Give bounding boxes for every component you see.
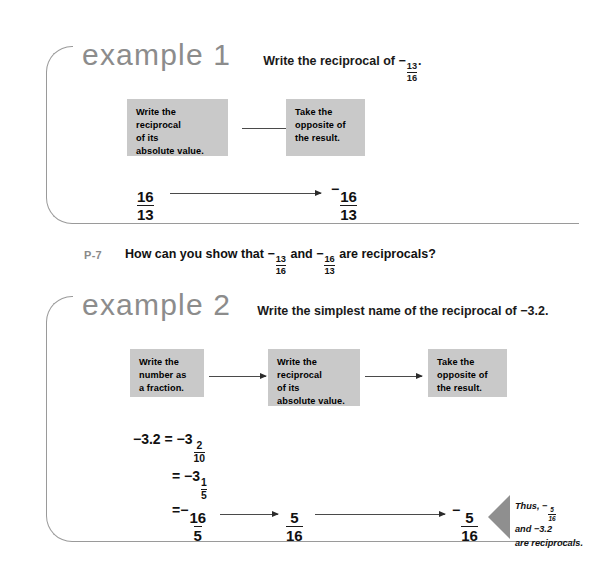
example-1-heading: example 1 Write the reciprocal of −1316.: [82, 40, 422, 84]
example-2-step-box-1: Write the number as a fraction.: [130, 349, 204, 397]
practice-text-part-1: How can you show that: [125, 247, 267, 261]
step-line: Take the: [437, 356, 499, 369]
result-fraction: 1613: [340, 189, 357, 222]
fraction-numerator: 16: [340, 189, 357, 205]
step-line: absolute value.: [277, 395, 352, 408]
callout-prefix: Thus,: [515, 501, 542, 511]
callout-line-2: and −3.2: [515, 523, 583, 537]
step-line: reciprocal: [136, 119, 220, 132]
fraction-numerator: 16: [189, 510, 206, 526]
step-line: of its: [136, 132, 220, 145]
equation-whole: −3: [177, 431, 193, 447]
fraction-denominator: 13: [340, 205, 357, 222]
example-2-callout-text: Thus, −516 and −3.2 are reciprocals.: [515, 500, 583, 550]
fraction-numerator: 16: [324, 255, 334, 265]
fraction-numerator: 13: [407, 62, 417, 72]
step-line: Write the: [136, 106, 220, 119]
callout-triangle-icon: [488, 495, 510, 539]
callout-line-1: Thus, −516: [515, 500, 583, 523]
example-2-flow-mid: 516: [285, 503, 304, 543]
practice-fraction-2: 1613: [324, 255, 334, 277]
example-2-equation-line-3: =−165: [172, 503, 207, 543]
fraction-denominator: 16: [286, 526, 303, 543]
fraction-numerator: 13: [276, 255, 286, 265]
step-line: opposite of: [295, 119, 357, 132]
example-1-prompt-sign: −: [398, 54, 405, 68]
example-1-prompt-suffix: .: [418, 54, 421, 68]
step-line: opposite of: [437, 369, 499, 382]
equation-fraction: 165: [189, 510, 206, 543]
callout-line-3: are reciprocals.: [515, 537, 583, 551]
result-fraction: 1613: [137, 189, 154, 222]
fraction-numerator: 2: [196, 441, 202, 452]
equation-equals: =: [172, 468, 180, 484]
example-2-flow-end: −516: [452, 503, 479, 543]
fraction-numerator: 5: [550, 507, 554, 514]
example-1-prompt-fraction: 1316: [407, 62, 417, 84]
fraction-denominator: 16: [548, 514, 555, 522]
example-2-arrow-1: [209, 376, 266, 377]
equation-lhs: −3.2: [133, 431, 161, 447]
result-sign: −: [452, 502, 460, 518]
fraction-numerator: 5: [290, 510, 298, 526]
fraction-denominator: 13: [137, 205, 154, 222]
result-fraction: 516: [286, 510, 303, 543]
step-line: Write the: [139, 356, 196, 369]
example-1-title: example 1: [82, 40, 231, 70]
step-line: Write the: [277, 356, 352, 369]
fraction-denominator: 10: [194, 452, 206, 464]
fraction-denominator: 16: [276, 265, 286, 276]
example-2-equation-line-1: −3.2 = −3210: [133, 432, 206, 464]
practice-text-part-2: and: [287, 247, 316, 261]
step-line: absolute value.: [136, 145, 220, 158]
fraction-numerator: 5: [465, 510, 473, 526]
example-1-prompt-prefix: Write the reciprocal of: [263, 54, 398, 68]
fraction-denominator: 13: [324, 265, 334, 276]
practice-question: How can you show that −1316 and −1613 ar…: [125, 247, 436, 277]
fraction-denominator: 16: [461, 526, 478, 543]
example-2-arrow-4: [315, 514, 445, 515]
practice-label: P-7: [84, 249, 102, 261]
example-2-equation-line-2: = −315: [172, 469, 208, 501]
step-line: the result.: [295, 132, 357, 145]
step-line: of its: [277, 382, 352, 395]
callout-sign: −: [542, 501, 547, 511]
fraction-denominator: 5: [194, 526, 202, 543]
step-line: number as: [139, 369, 196, 382]
equation-equals: =: [165, 431, 173, 447]
example-1-result-end: −1613: [331, 182, 358, 222]
step-line: a fraction.: [139, 382, 196, 395]
example-1-step-box-2: Take the opposite of the result.: [286, 99, 365, 156]
example-1-prompt: Write the reciprocal of −1316.: [263, 55, 421, 84]
fraction-numerator: 16: [137, 189, 154, 205]
example-1-step-box-1: Write the reciprocal of its absolute val…: [127, 99, 228, 156]
step-line: Take the: [295, 106, 357, 119]
step-line: the result.: [437, 382, 499, 395]
equation-fraction: 210: [194, 441, 206, 465]
fraction-denominator: 16: [407, 72, 417, 83]
fraction-numerator: 1: [201, 478, 207, 489]
equation-fraction: 15: [201, 478, 207, 502]
example-2-step-box-2: Write the reciprocal of its absolute val…: [268, 349, 360, 406]
example-2-arrow-3: [220, 514, 278, 515]
step-line: reciprocal: [277, 369, 352, 382]
practice-sign-2: −: [316, 247, 323, 261]
result-fraction: 516: [461, 510, 478, 543]
example-2-step-box-3: Take the opposite of the result.: [428, 349, 507, 397]
example-2-heading: example 2 Write the simplest name of the…: [82, 290, 548, 320]
fraction-denominator: 5: [201, 489, 207, 501]
callout-fraction: 516: [548, 507, 555, 523]
example-2-title: example 2: [82, 290, 231, 320]
example-2-prompt: Write the simplest name of the reciproca…: [257, 305, 548, 318]
practice-sign-1: −: [267, 247, 274, 261]
equation-sign: −: [180, 502, 188, 518]
example-1-arrow-2: [170, 193, 321, 194]
practice-text-part-3: are reciprocals?: [336, 247, 436, 261]
example-2-arrow-2: [365, 376, 422, 377]
example-1-result-start: 1613: [136, 182, 155, 222]
result-sign: −: [331, 181, 339, 197]
practice-fraction-1: 1316: [276, 255, 286, 277]
equation-whole: −3: [184, 468, 200, 484]
equation-equals: =: [172, 502, 180, 518]
